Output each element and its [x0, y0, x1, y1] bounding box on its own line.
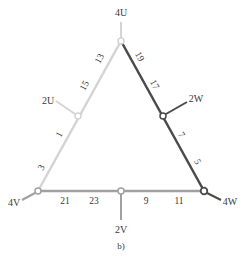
coil-number-5: 5 [192, 157, 203, 166]
coil-number-1: 1 [54, 130, 65, 139]
node-4v [35, 188, 41, 194]
coil-number-9: 9 [144, 196, 149, 206]
terminal-label-2v: 2V [115, 224, 128, 235]
node-4u [118, 38, 124, 44]
coil-number-13: 13 [93, 52, 106, 65]
node-2u [75, 113, 81, 119]
stub-2w [166, 102, 187, 114]
coil-number-11: 11 [174, 196, 183, 206]
winding-triangle-diagram: 4U 2U 4V 2V 2W 4W 13 15 1 3 19 17 7 5 21… [0, 0, 242, 263]
node-4w [201, 188, 208, 195]
coil-number-15: 15 [78, 79, 91, 92]
coil-number-19: 19 [133, 50, 146, 63]
figure-caption: b) [117, 241, 125, 251]
stub-4v [22, 193, 35, 200]
terminal-label-4w: 4W [223, 196, 238, 207]
terminal-label-4u: 4U [115, 7, 128, 18]
coil-number-17: 17 [148, 78, 161, 91]
coil-number-23: 23 [89, 196, 99, 206]
stub-2u [56, 101, 75, 114]
terminal-label-2w: 2W [189, 93, 204, 104]
node-2v [118, 188, 124, 194]
coil-number-7: 7 [176, 130, 187, 139]
stub-4w [207, 193, 221, 200]
terminal-label-4v: 4V [8, 197, 21, 208]
coil-number-21: 21 [60, 196, 70, 206]
coil-number-3: 3 [36, 163, 47, 172]
terminal-label-2u: 2U [42, 95, 55, 106]
node-2w [160, 113, 166, 119]
